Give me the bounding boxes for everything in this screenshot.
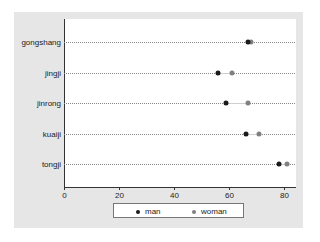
data-point-woman [229,70,234,75]
data-point-man [216,70,221,75]
legend-marker-man [136,210,140,214]
data-point-man [276,162,281,167]
legend-item-man: man [136,207,161,216]
category-label: jingji [45,68,61,77]
legend-label: man [145,207,161,216]
legend-label: woman [201,207,227,216]
x-tick [119,187,120,190]
gridline [64,103,295,104]
gridline [64,164,295,165]
legend-marker-woman [192,210,196,214]
data-point-man [243,131,248,136]
category-label: tongji [42,160,61,169]
x-tick-label: 60 [225,191,234,200]
data-point-woman [257,131,262,136]
x-tick-label: 40 [170,191,179,200]
x-tick [64,187,65,190]
x-tick-label: 80 [280,191,289,200]
x-tick [174,187,175,190]
data-point-man [246,40,251,45]
legend-item-woman: woman [192,207,227,216]
gridline [64,42,295,43]
data-point-woman [284,162,289,167]
data-point-woman [246,101,251,106]
x-tick-label: 20 [115,191,124,200]
legend: man woman [113,203,244,218]
x-tick-label: 0 [62,191,66,200]
gridline [64,73,295,74]
category-label: jinrong [37,99,61,108]
category-label: kuaiji [43,129,61,138]
data-point-man [224,101,229,106]
x-tick [229,187,230,190]
category-label: gongshang [21,38,61,47]
x-tick [284,187,285,190]
